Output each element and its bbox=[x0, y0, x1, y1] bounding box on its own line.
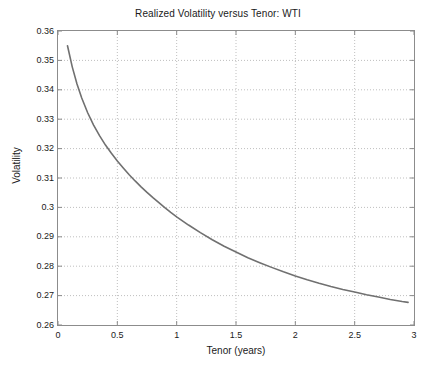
x-axis-tick-labels: 00.511.522.53 bbox=[0, 331, 436, 345]
x-tick-label: 2.5 bbox=[335, 331, 375, 340]
y-axis-tick-labels: 0.260.270.280.290.30.310.320.330.340.350… bbox=[6, 0, 54, 367]
x-tick-label: 3 bbox=[394, 331, 434, 340]
grid-lines bbox=[58, 31, 414, 325]
y-tick-label: 0.3 bbox=[10, 203, 54, 212]
x-tick-label: 1 bbox=[157, 331, 197, 340]
y-tick-label: 0.27 bbox=[10, 291, 54, 300]
y-tick-label: 0.26 bbox=[10, 321, 54, 330]
y-tick-label: 0.31 bbox=[10, 174, 54, 183]
data-series-line bbox=[67, 46, 408, 303]
x-tick-label: 2 bbox=[275, 331, 315, 340]
x-tick-label: 0.5 bbox=[97, 331, 137, 340]
chart-figure: Realized Volatility versus Tenor: WTI Vo… bbox=[0, 0, 436, 367]
y-tick-label: 0.35 bbox=[10, 56, 54, 65]
x-tick-label: 1.5 bbox=[216, 331, 256, 340]
plot-area bbox=[57, 30, 415, 326]
y-tick-label: 0.29 bbox=[10, 232, 54, 241]
x-axis-label: Tenor (years) bbox=[57, 345, 415, 356]
y-tick-label: 0.28 bbox=[10, 262, 54, 271]
y-tick-label: 0.34 bbox=[10, 85, 54, 94]
x-tick-label: 0 bbox=[38, 331, 78, 340]
plot-canvas bbox=[58, 31, 414, 325]
chart-title: Realized Volatility versus Tenor: WTI bbox=[0, 8, 436, 19]
y-tick-label: 0.33 bbox=[10, 115, 54, 124]
y-tick-label: 0.36 bbox=[10, 27, 54, 36]
y-tick-label: 0.32 bbox=[10, 144, 54, 153]
